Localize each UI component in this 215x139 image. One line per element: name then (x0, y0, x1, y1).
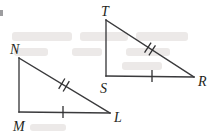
vertex-label-M: M (12, 119, 26, 134)
ghost-smudge-2 (80, 32, 128, 41)
vertex-label-L: L (113, 110, 122, 125)
triangle-MNL (19, 58, 110, 113)
vertex-label-S: S (100, 81, 107, 96)
vertex-label-N: N (9, 42, 20, 57)
vertex-label-R: R (197, 74, 207, 89)
ghost-smudge-6 (126, 48, 170, 56)
edge-ML (19, 112, 110, 113)
ghost-smudge-1 (12, 32, 72, 41)
edge-NL (19, 58, 110, 113)
ghost-smudge-5 (72, 48, 102, 56)
ghost-smudge-7 (122, 62, 162, 70)
edge-SR (106, 76, 194, 77)
vertex-label-T: T (101, 4, 110, 19)
corner-speck-icon (0, 10, 3, 16)
ghost-smudge-3 (136, 32, 188, 41)
geometry-figure: N M L T S R (0, 0, 215, 139)
ghost-smudge-8 (30, 124, 66, 131)
vertex-labels: N M L T S R (9, 4, 207, 134)
triangles-canvas: N M L T S R (0, 0, 215, 139)
